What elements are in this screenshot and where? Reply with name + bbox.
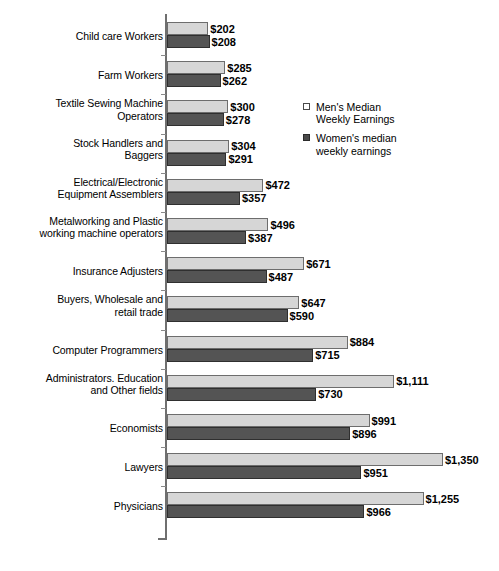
bar-women: $966 — [167, 505, 364, 518]
bar-men: $304 — [167, 140, 229, 153]
category-label: Textile Sewing MachineOperators — [0, 97, 163, 122]
legend-item: Men's MedianWeekly Earnings — [303, 101, 443, 125]
category-label-line: Farm Workers — [0, 69, 163, 81]
bar-value-men: $647 — [301, 297, 325, 309]
axis-tick — [161, 486, 166, 487]
bar-women: $590 — [167, 309, 288, 322]
category-label: Farm Workers — [0, 69, 163, 81]
bar-men: $884 — [167, 336, 348, 349]
category-label: Electrical/ElectronicEquipment Assembler… — [0, 176, 163, 201]
category-label: Insurance Adjusters — [0, 265, 163, 277]
bar-men: $202 — [167, 22, 208, 35]
chart-row: Insurance Adjusters$671$487 — [0, 257, 499, 287]
chart-row: Child care Workers$202$208 — [0, 22, 499, 52]
chart-row: Buyers, Wholesale andretail trade$647$59… — [0, 296, 499, 326]
category-label-line: Electrical/Electronic — [0, 176, 163, 188]
category-label-line: Stock Handlers and — [0, 137, 163, 149]
axis-tick — [161, 212, 166, 213]
chart-row: Economists$991$896 — [0, 414, 499, 444]
category-label-line: Baggers — [0, 149, 163, 161]
bar-value-men: $671 — [306, 258, 330, 270]
bar-women: $951 — [167, 466, 361, 479]
category-label: Physicians — [0, 500, 163, 512]
bar-women: $387 — [167, 231, 246, 244]
chart-legend: Men's MedianWeekly EarningsWomen's media… — [303, 101, 443, 164]
row-bars: $1,255$966 — [167, 492, 424, 518]
bar-value-women: $951 — [363, 467, 387, 479]
axis-tick — [161, 447, 166, 448]
category-label-line: Child care Workers — [0, 30, 163, 42]
bar-women: $291 — [167, 153, 226, 166]
bar-value-men: $300 — [230, 101, 254, 113]
category-label: Stock Handlers andBaggers — [0, 137, 163, 162]
axis-tick — [161, 290, 166, 291]
category-label-line: Equipment Assemblers — [0, 188, 163, 200]
category-label-line: Computer Programmers — [0, 344, 163, 356]
category-label: Metalworking and Plasticworking machine … — [0, 215, 163, 240]
bar-value-women: $715 — [315, 349, 339, 361]
bar-women: $262 — [167, 74, 221, 87]
category-label-line: Lawyers — [0, 461, 163, 473]
bar-value-women: $590 — [290, 310, 314, 322]
row-bars: $300$278 — [167, 100, 228, 126]
chart-row: Computer Programmers$884$715 — [0, 336, 499, 366]
bar-men: $1,111 — [167, 375, 394, 388]
legend-label-line: Men's Median — [316, 101, 443, 113]
category-label: Computer Programmers — [0, 344, 163, 356]
chart-row: Metalworking and Plasticworking machine … — [0, 218, 499, 248]
category-label-line: retail trade — [0, 306, 163, 318]
category-label-line: Textile Sewing Machine — [0, 97, 163, 109]
bar-men: $300 — [167, 100, 228, 113]
bar-value-men: $1,255 — [426, 493, 460, 505]
row-bars: $202$208 — [167, 22, 210, 48]
bar-value-men: $472 — [265, 179, 289, 191]
bar-value-men: $304 — [231, 140, 255, 152]
chart-row: Physicians$1,255$966 — [0, 492, 499, 522]
legend-label-line: weekly earnings — [316, 145, 443, 157]
category-label-line: Physicians — [0, 500, 163, 512]
bar-value-men: $884 — [350, 336, 374, 348]
bar-value-men: $1,350 — [445, 454, 479, 466]
category-label: Economists — [0, 422, 163, 434]
bar-value-women: $896 — [352, 428, 376, 440]
category-label-line: and Other fields — [0, 384, 163, 396]
bar-men: $1,350 — [167, 453, 443, 466]
bar-women: $487 — [167, 270, 267, 283]
legend-swatch-women — [303, 134, 310, 141]
row-bars: $671$487 — [167, 257, 304, 283]
bar-value-men: $496 — [270, 219, 294, 231]
bar-women: $208 — [167, 35, 210, 48]
bar-value-women: $387 — [248, 232, 272, 244]
bar-women: $730 — [167, 388, 316, 401]
category-label: Child care Workers — [0, 30, 163, 42]
bar-men: $285 — [167, 61, 225, 74]
bar-value-women: $487 — [269, 271, 293, 283]
row-bars: $472$357 — [167, 179, 263, 205]
axis-tick — [161, 330, 166, 331]
chart-row: Lawyers$1,350$951 — [0, 453, 499, 483]
cut-off-caption-strip — [0, 562, 499, 571]
category-label-line: Administrators. Education — [0, 372, 163, 384]
bar-value-women: $262 — [223, 75, 247, 87]
axis-tick — [161, 369, 166, 370]
category-label-line: Buyers, Wholesale and — [0, 293, 163, 305]
bar-women: $357 — [167, 192, 240, 205]
category-label: Buyers, Wholesale andretail trade — [0, 293, 163, 318]
axis-tick — [161, 408, 166, 409]
bar-women: $715 — [167, 349, 313, 362]
bar-value-men: $991 — [372, 415, 396, 427]
category-label: Lawyers — [0, 461, 163, 473]
legend-item: Women's medianweekly earnings — [303, 132, 443, 156]
bar-men: $496 — [167, 218, 268, 231]
bar-value-women: $278 — [226, 114, 250, 126]
bar-value-women: $966 — [366, 506, 390, 518]
category-label-line: working machine operators — [0, 227, 163, 239]
bar-value-women: $357 — [242, 192, 266, 204]
bar-value-women: $730 — [318, 388, 342, 400]
bar-men: $671 — [167, 257, 304, 270]
bar-men: $1,255 — [167, 492, 424, 505]
row-bars: $647$590 — [167, 296, 299, 322]
legend-label-line: Weekly Earnings — [316, 113, 443, 125]
axis-tick — [161, 251, 166, 252]
axis-tick — [161, 94, 166, 95]
